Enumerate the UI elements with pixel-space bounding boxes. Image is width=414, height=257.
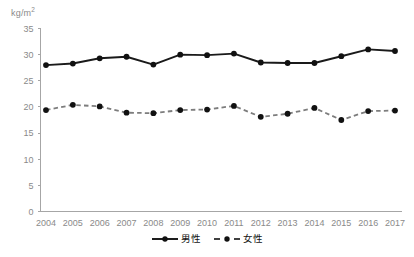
x-axis-tick-label: 2008 xyxy=(143,218,163,228)
data-point-female xyxy=(365,108,371,114)
data-point-male xyxy=(285,60,291,66)
data-point-male xyxy=(231,51,237,57)
data-point-male xyxy=(204,52,210,58)
data-point-male xyxy=(150,62,156,68)
x-axis-tick-label: 2011 xyxy=(224,218,243,228)
y-axis-tick-label: 20 xyxy=(23,102,33,112)
data-point-female xyxy=(204,107,210,113)
y-axis-tick-label: 30 xyxy=(23,50,33,60)
x-axis-tick-label: 2015 xyxy=(331,218,351,228)
data-point-female xyxy=(338,117,344,123)
data-point-male xyxy=(312,60,318,66)
data-point-male xyxy=(97,55,103,61)
y-axis-tick-group: 05101520253035 xyxy=(23,24,40,217)
x-axis-tick-label: 2016 xyxy=(358,218,378,228)
y-axis-tick-label: 5 xyxy=(28,181,33,191)
series-markers-male xyxy=(43,47,398,68)
x-axis-tick-label: 2010 xyxy=(197,218,217,228)
x-axis-tick-label: 2012 xyxy=(251,218,271,228)
data-point-male xyxy=(43,62,49,68)
data-point-female xyxy=(258,114,264,120)
data-point-female xyxy=(392,108,398,114)
data-point-female xyxy=(43,107,49,113)
data-point-female xyxy=(124,110,130,116)
x-axis-tick-label: 2017 xyxy=(385,218,405,228)
x-axis-tick-label: 2006 xyxy=(90,218,110,228)
data-point-male xyxy=(365,47,371,53)
y-axis-tick-label: 15 xyxy=(23,128,33,138)
data-point-female xyxy=(285,111,291,117)
data-point-male xyxy=(70,61,76,67)
y-axis-tick-label: 0 xyxy=(28,207,33,217)
data-point-female xyxy=(177,107,183,113)
x-axis-tick-label: 2014 xyxy=(304,218,324,228)
legend-item-female[interactable]: 女性 xyxy=(214,234,263,244)
line-chart-plot: 05101520253035 2004200520062007200820092… xyxy=(0,0,414,257)
x-axis-tick-label: 2007 xyxy=(117,218,137,228)
x-axis-tick-label: 2005 xyxy=(63,218,83,228)
data-point-female xyxy=(97,104,103,110)
x-axis-tick-label: 2004 xyxy=(36,218,56,228)
data-point-male xyxy=(338,53,344,59)
series-markers-female xyxy=(43,102,398,123)
data-point-female xyxy=(312,105,318,111)
data-point-male xyxy=(177,52,183,58)
chart-container: kg/m2 05101520253035 2004200520062007200… xyxy=(0,0,414,257)
x-axis-tick-label: 2013 xyxy=(278,218,298,228)
legend-dashed-line-icon xyxy=(214,234,240,244)
x-axis-tick-group: 2004200520062007200820092010201120122013… xyxy=(36,218,405,228)
legend-solid-line-icon xyxy=(152,234,178,244)
legend-label-female: 女性 xyxy=(243,234,263,244)
data-point-female xyxy=(70,102,76,108)
data-point-female xyxy=(231,103,237,109)
data-point-male xyxy=(258,60,264,66)
x-axis-tick-label: 2009 xyxy=(170,218,190,228)
data-point-male xyxy=(124,54,130,60)
data-point-male xyxy=(392,48,398,54)
y-axis-tick-label: 35 xyxy=(23,24,33,34)
chart-legend: 男性 女性 xyxy=(0,234,414,244)
y-axis-tick-label: 10 xyxy=(23,155,33,165)
y-axis-tick-label: 25 xyxy=(23,76,33,86)
legend-item-male[interactable]: 男性 xyxy=(152,234,201,244)
data-point-female xyxy=(150,110,156,116)
legend-label-male: 男性 xyxy=(181,234,201,244)
